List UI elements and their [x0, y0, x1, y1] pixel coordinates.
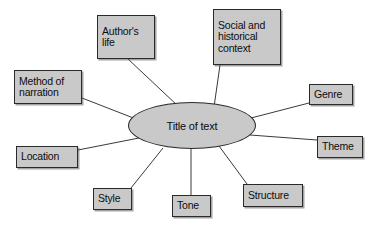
node-label-theme: Theme	[322, 141, 354, 153]
node-label-structure: Structure	[248, 190, 289, 202]
node-label-genre: Genre	[314, 89, 342, 101]
connector-line-location	[78, 138, 139, 150]
node-label-social-historical-context: Social and historical context	[218, 20, 265, 55]
connector-line-theme	[250, 135, 317, 140]
node-genre[interactable]: Genre	[309, 84, 353, 105]
connector-line-method-of-narration	[82, 98, 136, 119]
center-node-title-of-text[interactable]: Title of text	[128, 102, 256, 149]
spider-diagram: Title of text Author's life Social and h…	[0, 0, 378, 232]
node-label-method-of-narration: Method of narration	[19, 76, 64, 99]
center-node-label: Title of text	[167, 120, 218, 132]
node-style[interactable]: Style	[93, 188, 132, 210]
node-label-tone: Tone	[177, 200, 199, 212]
node-structure[interactable]: Structure	[243, 184, 303, 207]
node-label-style: Style	[98, 193, 120, 205]
connector-line-structure	[219, 146, 247, 184]
node-label-location: Location	[21, 151, 59, 163]
node-location[interactable]: Location	[16, 146, 78, 168]
node-authors-life[interactable]: Author's life	[97, 15, 155, 59]
connector-line-style	[131, 148, 163, 188]
node-theme[interactable]: Theme	[317, 136, 363, 158]
node-method-of-narration[interactable]: Method of narration	[14, 70, 82, 104]
connector-line-social-historical-context	[214, 65, 220, 107]
node-label-authors-life: Author's life	[102, 26, 139, 49]
connector-line-genre	[251, 103, 309, 118]
node-tone[interactable]: Tone	[172, 195, 211, 217]
connector-line-authors-life	[128, 59, 178, 106]
node-social-historical-context[interactable]: Social and historical context	[213, 9, 281, 65]
